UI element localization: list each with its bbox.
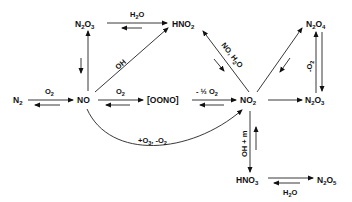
species-no2: NO2 (240, 95, 257, 106)
label-no2-hno2: NO, H2O (219, 41, 245, 71)
label-n2o3-hno2: H2O (130, 10, 144, 20)
species-hno3: HNO3 (236, 175, 259, 186)
species-hno2: HNO2 (172, 19, 195, 30)
label-no-oono: O2 (116, 87, 125, 97)
species-n2o3-top: N2O3 (75, 19, 95, 30)
label-n2-no: O2 (45, 87, 54, 97)
arrow-no-to-hno2 (95, 28, 168, 92)
species-n2o3-right: N2O3 (305, 95, 325, 106)
species-no: NO (77, 95, 90, 105)
arrow-no2-to-n2o4 (257, 28, 302, 92)
species-oono: [OONO] (147, 95, 179, 105)
label-hno3-n2o5: H2O (283, 188, 297, 198)
species-n2: N2 (13, 95, 23, 106)
reaction-diagram: N2 NO [OONO] NO2 N2O3 N2O3 HNO2 N2O4 HNO… (0, 0, 352, 202)
arrow-hno2-to-no2 (214, 59, 224, 71)
label-no-no2-curve: +O3, -O2 (138, 136, 167, 146)
label-oono-no2: - ½ O2 (196, 87, 218, 97)
species-n2o4: N2O4 (306, 19, 326, 30)
arrow-n2o4-to-no2 (280, 58, 290, 72)
label-no-hno2: OH (113, 57, 127, 71)
species-n2o5: N2O5 (317, 175, 337, 186)
label-no2-hno3: OH + m (240, 130, 249, 157)
label-n2o4-n2o3: -O2 (305, 61, 315, 72)
